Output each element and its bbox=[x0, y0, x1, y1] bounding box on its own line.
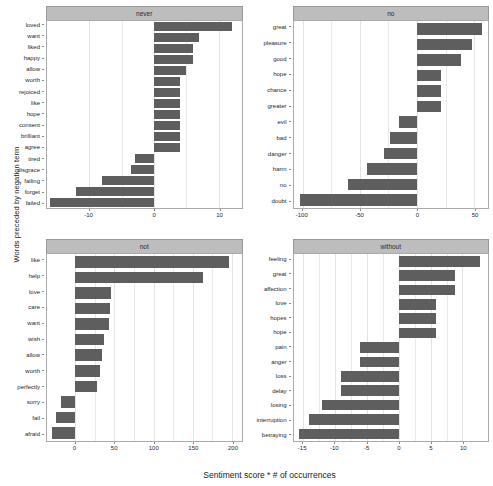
bar[interactable] bbox=[75, 365, 100, 377]
bar[interactable] bbox=[75, 381, 97, 393]
bar[interactable] bbox=[75, 318, 109, 330]
bar[interactable] bbox=[367, 163, 417, 175]
y-tick-label: evil bbox=[247, 114, 291, 130]
x-tick-mark bbox=[399, 442, 400, 444]
bar[interactable] bbox=[399, 313, 437, 324]
bar-row bbox=[47, 379, 242, 395]
y-tick-label: fail bbox=[0, 410, 44, 426]
bar-row bbox=[47, 43, 242, 54]
y-tick-mark bbox=[289, 137, 291, 138]
bar[interactable] bbox=[154, 99, 180, 107]
facet-strip-no: no bbox=[293, 6, 490, 20]
y-tick-mark bbox=[289, 121, 291, 122]
bar[interactable] bbox=[417, 70, 441, 82]
bar[interactable] bbox=[135, 154, 154, 162]
bar[interactable] bbox=[75, 256, 229, 268]
y-tick-label: rejoiced bbox=[0, 86, 44, 97]
bar[interactable] bbox=[154, 77, 180, 85]
y-tick-label: greater bbox=[247, 98, 291, 114]
bar[interactable] bbox=[154, 22, 232, 30]
bar[interactable] bbox=[417, 23, 482, 35]
bar[interactable] bbox=[360, 357, 398, 368]
y-tick-mark bbox=[42, 291, 44, 292]
bar[interactable] bbox=[154, 66, 186, 74]
y-tick-label: want bbox=[0, 315, 44, 331]
plot-area-never bbox=[46, 20, 243, 209]
bar[interactable] bbox=[348, 179, 417, 191]
bar[interactable] bbox=[399, 116, 417, 128]
x-tick-label: -10 bbox=[330, 445, 339, 451]
bar[interactable] bbox=[56, 412, 75, 424]
bar-row bbox=[294, 355, 489, 369]
bar[interactable] bbox=[154, 33, 199, 41]
bar[interactable] bbox=[417, 101, 441, 113]
y-tick-label: betraying bbox=[247, 427, 291, 442]
x-tick-mark bbox=[154, 209, 155, 211]
bar[interactable] bbox=[154, 121, 180, 129]
bar[interactable] bbox=[390, 132, 417, 144]
bar[interactable] bbox=[102, 176, 154, 184]
y-tick-mark bbox=[42, 402, 44, 403]
x-tick-label: -100 bbox=[296, 212, 308, 218]
bar[interactable] bbox=[154, 55, 193, 63]
bar-row bbox=[294, 177, 489, 193]
bar[interactable] bbox=[384, 148, 417, 160]
bar[interactable] bbox=[322, 400, 399, 411]
bar[interactable] bbox=[131, 165, 154, 173]
bar-row bbox=[47, 120, 242, 131]
y-tick-mark bbox=[42, 69, 44, 70]
bar[interactable] bbox=[154, 143, 180, 151]
y-tick-mark bbox=[42, 113, 44, 114]
bar[interactable] bbox=[154, 132, 180, 140]
y-tick-label: afraid bbox=[0, 426, 44, 442]
bar[interactable] bbox=[75, 349, 102, 361]
bar-row bbox=[294, 268, 489, 282]
bar[interactable] bbox=[75, 287, 111, 299]
bar[interactable] bbox=[399, 256, 481, 267]
y-tick-mark bbox=[42, 125, 44, 126]
bar[interactable] bbox=[341, 385, 398, 396]
bar[interactable] bbox=[75, 334, 104, 346]
bar-row bbox=[294, 283, 489, 297]
x-tick-label: -10 bbox=[84, 212, 93, 218]
bar[interactable] bbox=[399, 285, 455, 296]
bar[interactable] bbox=[75, 272, 203, 284]
y-tick-mark bbox=[289, 390, 291, 391]
bar[interactable] bbox=[309, 414, 398, 425]
bar[interactable] bbox=[341, 371, 398, 382]
bar[interactable] bbox=[360, 342, 398, 353]
x-tick-mark bbox=[367, 442, 368, 444]
figure: Words preceded by negation term Sentimen… bbox=[0, 0, 493, 486]
bar[interactable] bbox=[417, 85, 441, 97]
plot-area-no bbox=[293, 20, 490, 209]
facet-strip-label: without bbox=[380, 243, 401, 250]
bar-row bbox=[47, 164, 242, 175]
bar[interactable] bbox=[299, 429, 398, 440]
bar[interactable] bbox=[75, 303, 110, 315]
bar-row bbox=[47, 32, 242, 43]
x-tick-mark bbox=[360, 209, 361, 211]
bar[interactable] bbox=[417, 54, 460, 66]
bar[interactable] bbox=[50, 198, 154, 206]
bar-row bbox=[294, 161, 489, 177]
bar[interactable] bbox=[300, 194, 417, 206]
y-tick-label: forget bbox=[0, 187, 44, 198]
y-tick-label: bad bbox=[247, 130, 291, 146]
bar[interactable] bbox=[399, 299, 437, 310]
y-tick-mark bbox=[42, 386, 44, 387]
bar[interactable] bbox=[399, 328, 437, 339]
bar[interactable] bbox=[154, 44, 193, 52]
bar[interactable] bbox=[399, 270, 455, 281]
bar[interactable] bbox=[61, 396, 75, 408]
y-tick-mark bbox=[289, 201, 291, 202]
bar[interactable] bbox=[417, 39, 472, 51]
facet-panel-not: notlikehelplovecarewantwishallowworthper… bbox=[0, 233, 247, 466]
bar-row bbox=[294, 312, 489, 326]
bar[interactable] bbox=[154, 110, 180, 118]
y-tick-mark bbox=[42, 275, 44, 276]
y-tick-mark bbox=[42, 192, 44, 193]
bar[interactable] bbox=[154, 88, 180, 96]
y-tick-label: loved bbox=[0, 19, 44, 30]
bar[interactable] bbox=[52, 427, 76, 439]
bar[interactable] bbox=[76, 187, 154, 195]
